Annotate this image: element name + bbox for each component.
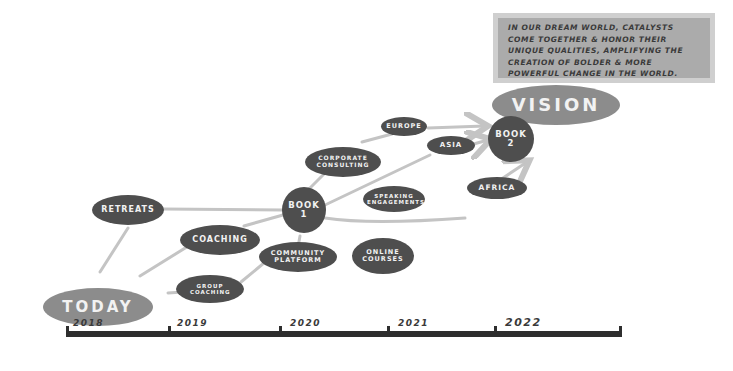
- node-coaching[interactable]: Coaching: [180, 225, 260, 255]
- node-online-courses[interactable]: Online Courses: [352, 238, 414, 274]
- node-group-coaching[interactable]: Group Coaching: [176, 275, 244, 303]
- node-community-platform[interactable]: Community Platform: [259, 242, 337, 272]
- node-online-courses-label: Online Courses: [361, 249, 405, 263]
- vision-statement-box: In our dream world, catalysts come toget…: [493, 13, 715, 83]
- node-book-2[interactable]: Book 2: [488, 116, 534, 162]
- node-today-label: Today: [62, 299, 133, 316]
- node-book-1[interactable]: Book 1: [282, 187, 326, 233]
- node-community-platform-label: Community Platform: [265, 250, 331, 264]
- node-asia[interactable]: Asia: [427, 136, 475, 155]
- node-corporate-consulting-label: Corporate Consulting: [315, 155, 371, 168]
- node-retreats-label: Retreats: [101, 206, 155, 215]
- node-book-2-label: Book 2: [494, 130, 528, 149]
- node-speaking-engagements-label: Speaking Engagements: [367, 193, 421, 205]
- node-speaking-engagements[interactable]: Speaking Engagements: [363, 186, 425, 212]
- year-label-2021: 2021: [398, 318, 429, 328]
- year-label-2018: 2018: [73, 318, 104, 328]
- node-africa-label: Africa: [479, 184, 516, 192]
- node-vision-label: Vision: [512, 95, 601, 115]
- year-label-2020: 2020: [290, 318, 321, 328]
- timeline-tick-2020: [279, 326, 282, 337]
- node-africa[interactable]: Africa: [467, 177, 527, 199]
- year-label-2019: 2019: [177, 318, 208, 328]
- node-europe[interactable]: Europe: [381, 117, 427, 136]
- timeline-tick-2021: [387, 326, 390, 337]
- timeline-tick-2019: [168, 326, 171, 337]
- timeline-tick-2022: [494, 326, 497, 337]
- node-corporate-consulting[interactable]: Corporate Consulting: [305, 147, 381, 177]
- timeline-tick-2018: [66, 326, 69, 337]
- timeline-axis: [66, 331, 622, 337]
- node-europe-label: Europe: [386, 123, 421, 130]
- node-group-coaching-label: Group Coaching: [190, 283, 230, 295]
- node-book-1-label: Book 1: [288, 201, 320, 220]
- timeline-tick-end: [619, 326, 622, 337]
- year-label-2022: 2022: [505, 316, 542, 329]
- node-retreats[interactable]: Retreats: [92, 195, 164, 225]
- node-coaching-label: Coaching: [192, 236, 247, 245]
- node-asia-label: Asia: [440, 142, 462, 150]
